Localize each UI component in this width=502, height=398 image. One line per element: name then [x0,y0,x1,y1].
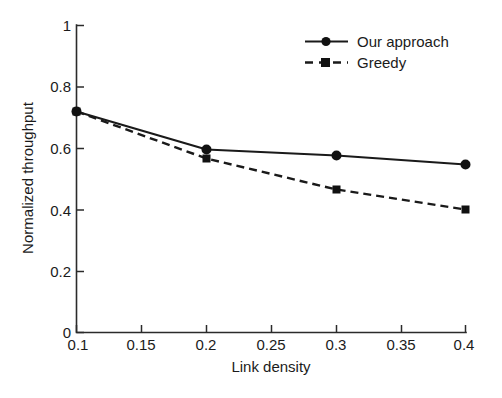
legend-label-our-approach: Our approach [357,33,449,50]
x-tick-label-0.35: 0.35 [386,336,415,353]
y-tick-label-0.8: 0.8 [50,78,71,95]
x-tick-label-0.4: 0.4 [454,336,475,353]
x-tick-label-0.3: 0.3 [326,336,347,353]
our-approach-marker-0.3 [332,151,342,161]
x-axis-title: Link density [231,358,311,375]
greedy-marker-0.4 [462,206,470,214]
x-tick-label-0.25: 0.25 [256,336,285,353]
our-approach-marker-0.4 [461,160,471,170]
x-tick-label-0.2: 0.2 [196,336,217,353]
x-axis-tick-labels: 0.1 0.15 0.2 0.25 0.3 0.35 0.4 [68,336,475,353]
y-axis-title: Normalized throughput [19,101,36,254]
y-tick-label-1: 1 [63,17,71,34]
y-tick-label-0.6: 0.6 [50,140,71,157]
our-approach-marker-0.1 [72,107,82,117]
y-tick-label-0.2: 0.2 [50,263,71,280]
greedy-marker-0.2 [203,155,211,163]
legend-label-greedy: Greedy [357,54,407,71]
circle-marker-icon [321,37,330,46]
greedy-marker-0.3 [333,186,341,194]
square-marker-icon [321,58,330,67]
chart-figure: 1 0.8 0.6 0.4 0.2 0 0.1 0.15 0.2 0.25 0.… [0,0,502,398]
x-tick-label-0.15: 0.15 [126,336,155,353]
x-tick-label-0.1: 0.1 [68,336,89,353]
our-approach-marker-0.2 [202,145,212,155]
y-tick-label-0.4: 0.4 [50,202,71,219]
